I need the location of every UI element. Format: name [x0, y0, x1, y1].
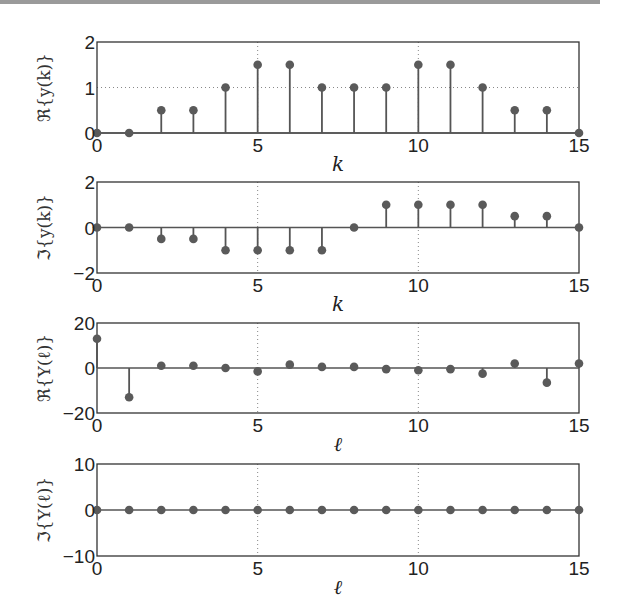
stem-marker	[286, 506, 295, 515]
stem-marker	[253, 367, 262, 376]
stem-marker	[510, 359, 519, 368]
y-tick-label: 20	[74, 313, 95, 334]
stem-marker	[382, 200, 391, 209]
stem-marker	[286, 246, 295, 255]
y-tick-label: −10	[63, 546, 95, 567]
stem-marker	[446, 60, 455, 69]
x-tick-label: 5	[252, 558, 263, 579]
stem-marker	[575, 506, 584, 515]
stem-marker	[318, 83, 327, 92]
x-axis-label: k	[332, 292, 344, 316]
stem-marker	[93, 334, 102, 343]
stem-marker	[382, 83, 391, 92]
stem-marker	[125, 393, 134, 402]
y-tick-label: −20	[63, 403, 95, 424]
stem-marker	[157, 106, 166, 115]
stem-marker	[189, 506, 198, 515]
x-tick-label: 15	[568, 558, 589, 579]
stem-marker	[221, 506, 230, 515]
stem-marker	[125, 223, 134, 232]
y-axis-label: ℑ{Y(ℓ)}	[34, 477, 54, 543]
stem-marker	[286, 60, 295, 69]
stem-marker	[414, 60, 423, 69]
stem-marker	[575, 359, 584, 368]
stem-marker	[318, 246, 327, 255]
stem-marker	[543, 212, 552, 221]
x-tick-label: 15	[568, 415, 589, 436]
x-tick-label: 5	[252, 275, 263, 296]
stem-marker	[382, 506, 391, 515]
x-axis-label: k	[332, 152, 344, 176]
stem-marker	[510, 212, 519, 221]
stem-marker	[157, 506, 166, 515]
stem-marker	[157, 235, 166, 244]
stem-marker	[286, 360, 295, 369]
x-axis-label: ℓ	[334, 575, 343, 599]
stem-marker	[446, 506, 455, 515]
stem-marker	[125, 506, 134, 515]
stem-marker	[543, 506, 552, 515]
stem-marker	[253, 506, 262, 515]
y-tick-label: 0	[84, 218, 95, 239]
y-axis-label: ℜ{y(k)}	[34, 53, 54, 122]
stem-marker	[350, 506, 359, 515]
stem-marker	[414, 366, 423, 375]
y-tick-label: 2	[84, 172, 95, 193]
stem-marker	[382, 365, 391, 374]
x-tick-label: 5	[252, 135, 263, 156]
stem-marker	[189, 235, 198, 244]
y-tick-label: 10	[74, 454, 95, 475]
x-axis-label: ℓ	[334, 432, 343, 456]
stem-marker	[510, 506, 519, 515]
x-tick-label: 10	[408, 415, 429, 436]
x-tick-label: 15	[568, 135, 589, 156]
x-tick-label: 5	[252, 415, 263, 436]
stem-marker	[350, 223, 359, 232]
y-axis-label: ℜ{Y(ℓ)}	[34, 334, 54, 402]
x-tick-label: 10	[408, 275, 429, 296]
y-tick-label: 1	[84, 78, 95, 99]
stem-marker	[221, 364, 230, 373]
x-tick-label: 10	[408, 558, 429, 579]
stem-marker	[189, 361, 198, 370]
stem-marker	[350, 83, 359, 92]
y-tick-label: −2	[73, 263, 95, 284]
stem-marker	[318, 363, 327, 372]
stem-marker	[446, 365, 455, 374]
stem-marker	[125, 129, 134, 138]
subplot-2: 051015−202kℑ{y(k)}	[34, 172, 590, 316]
stem-marker	[318, 506, 327, 515]
y-tick-label: 0	[84, 123, 95, 144]
stem-marker	[543, 106, 552, 115]
y-tick-label: 2	[84, 32, 95, 53]
stem-marker	[478, 200, 487, 209]
stem-marker	[478, 369, 487, 378]
subplot-1: 051015012kℜ{y(k)}	[34, 32, 590, 176]
stem-marker	[253, 60, 262, 69]
stem-marker	[221, 83, 230, 92]
stem-marker	[157, 361, 166, 370]
x-tick-label: 10	[408, 135, 429, 156]
stem-plot-figure: 051015012kℜ{y(k)}051015−202kℑ{y(k)}05101…	[0, 0, 622, 616]
stem-marker	[253, 246, 262, 255]
y-tick-label: 0	[84, 500, 95, 521]
stem-marker	[414, 200, 423, 209]
stem-marker	[350, 363, 359, 372]
stem-marker	[189, 106, 198, 115]
stem-marker	[510, 106, 519, 115]
y-axis-label: ℑ{y(k)}	[34, 194, 54, 261]
stem-marker	[543, 378, 552, 387]
stem-marker	[414, 506, 423, 515]
stem-marker	[478, 506, 487, 515]
stem-marker	[221, 246, 230, 255]
subplot-4: 051015−10010ℓℑ{Y(ℓ)}	[34, 454, 590, 599]
y-tick-label: 0	[84, 358, 95, 379]
stem-marker	[575, 223, 584, 232]
subplot-3: 051015−20020ℓℜ{Y(ℓ)}	[34, 313, 590, 456]
x-tick-label: 15	[568, 275, 589, 296]
stem-marker	[478, 83, 487, 92]
stem-marker	[446, 200, 455, 209]
